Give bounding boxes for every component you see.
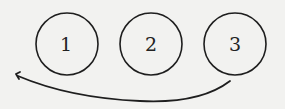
node-3-label: 3 — [229, 33, 241, 55]
node-1: 1 — [36, 13, 98, 75]
node-2-label: 2 — [145, 33, 157, 55]
node-1-label: 1 — [60, 33, 72, 55]
arrow-curve — [18, 76, 230, 101]
node-3: 3 — [204, 13, 266, 75]
diagram-canvas: 1 2 3 — [0, 0, 285, 109]
node-2: 2 — [120, 13, 182, 75]
loop-back-arrow — [16, 72, 230, 101]
diagram-svg: 1 2 3 — [0, 0, 285, 109]
